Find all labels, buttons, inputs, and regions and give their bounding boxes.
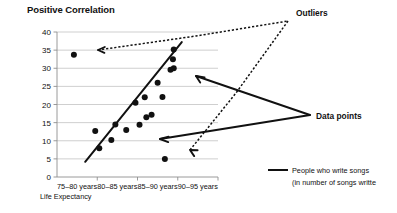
x-tick-label: 75–80 years <box>57 182 98 191</box>
data-point <box>132 100 138 106</box>
y-tick-label: 35 <box>42 46 51 55</box>
x-axis-tick-labels: 75–80 years80–85 years85–90 years90–95 y… <box>57 182 218 191</box>
data-point <box>137 122 143 128</box>
y-axis-tick-labels: 0510152025303540 <box>42 28 51 182</box>
y-tick-label: 25 <box>42 82 51 91</box>
x-tick-label: 90–95 years <box>178 182 219 191</box>
y-tick-label: 0 <box>47 173 52 182</box>
data-points-annotation: Data points <box>160 76 362 142</box>
scatter-plot-svg: 0510152025303540 75–80 years80–85 years8… <box>0 0 397 213</box>
x-axis-tickmarks <box>97 177 218 181</box>
data-point <box>168 67 174 73</box>
y-tick-label: 10 <box>42 137 51 146</box>
y-tick-label: 30 <box>42 64 51 73</box>
data-point <box>92 128 98 134</box>
data-point <box>171 46 177 52</box>
data-point-markers <box>92 46 176 151</box>
data-point <box>170 56 176 62</box>
legend-sublabel: (in number of songs writte <box>292 178 376 187</box>
outliers-annotation-label: Outliers <box>296 8 328 18</box>
data-point <box>112 121 118 127</box>
data-point <box>155 80 161 86</box>
outlier-point <box>71 52 77 58</box>
legend-entry-label: People who write songs <box>292 166 369 175</box>
data-point <box>96 145 102 151</box>
x-tick-label: 80–85 years <box>97 182 138 191</box>
y-tick-label: 15 <box>42 119 51 128</box>
outlier-point <box>162 156 168 162</box>
y-tick-label: 5 <box>47 155 52 164</box>
data-point <box>149 112 155 118</box>
x-tick-label: 85–90 years <box>138 182 179 191</box>
data-point <box>143 114 149 120</box>
data-point <box>123 127 129 133</box>
data-point <box>159 94 165 100</box>
chart-figure: Positive Correlation 0510152025303540 75… <box>0 0 397 213</box>
y-tick-label: 20 <box>42 101 51 110</box>
x-axis-title: Life Expectancy <box>40 192 92 201</box>
y-tick-label: 40 <box>42 28 51 37</box>
data-points-annotation-label: Data points <box>316 111 362 121</box>
legend: People who write songs (in number of son… <box>268 166 376 187</box>
data-point <box>108 137 114 143</box>
data-point <box>142 94 148 100</box>
